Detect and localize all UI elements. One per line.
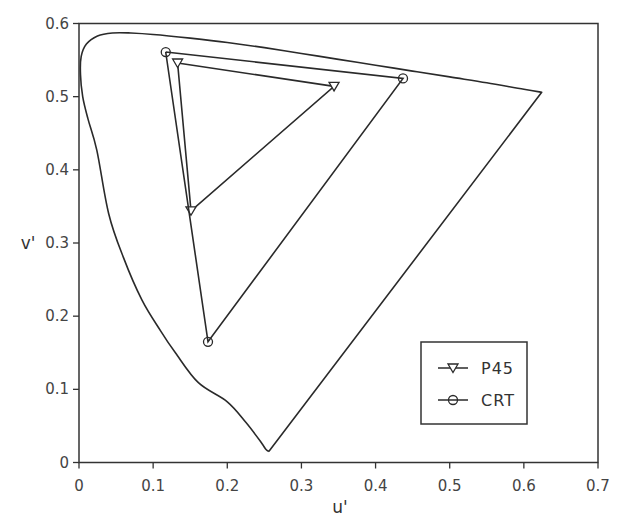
series-line xyxy=(178,63,335,211)
y-tick-label: 0.5 xyxy=(45,88,69,106)
x-tick-label: 0.4 xyxy=(364,477,388,495)
y-axis-title: v' xyxy=(21,233,36,253)
y-tick-label: 0.4 xyxy=(45,161,69,179)
x-axis-ticks: 00.10.20.30.40.50.60.7 xyxy=(74,463,610,495)
legend-box xyxy=(421,342,527,424)
legend-label: CRT xyxy=(481,391,515,410)
x-tick-label: 0.7 xyxy=(586,477,610,495)
x-axis-title: u' xyxy=(332,497,347,517)
y-axis-ticks: 00.10.20.30.40.50.6 xyxy=(45,15,79,472)
chromaticity-chart: 00.10.20.30.40.50.60.7 00.10.20.30.40.50… xyxy=(0,0,624,532)
data-series xyxy=(161,48,407,347)
series-crt xyxy=(161,48,407,347)
x-tick-label: 0.6 xyxy=(512,477,536,495)
x-tick-label: 0.1 xyxy=(141,477,165,495)
legend: P45CRT xyxy=(421,342,527,424)
y-tick-label: 0 xyxy=(59,454,69,472)
series-line xyxy=(166,52,403,342)
y-tick-label: 0.2 xyxy=(45,307,69,325)
y-tick-label: 0.1 xyxy=(45,380,69,398)
x-tick-label: 0.2 xyxy=(215,477,239,495)
triangle-down-marker-icon xyxy=(186,207,196,216)
x-tick-label: 0 xyxy=(74,477,84,495)
series-p45 xyxy=(173,59,339,215)
x-tick-label: 0.3 xyxy=(289,477,313,495)
y-tick-label: 0.6 xyxy=(45,15,69,33)
x-tick-label: 0.5 xyxy=(438,477,462,495)
legend-label: P45 xyxy=(481,359,514,378)
y-tick-label: 0.3 xyxy=(45,234,69,252)
